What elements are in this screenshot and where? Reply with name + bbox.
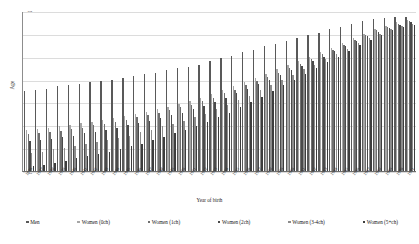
bar-group [198,12,209,171]
bar-group [285,12,296,171]
x-tick-label: 1942 [90,167,99,177]
x-tick-label: 1958 [265,167,274,177]
x-tick-label: 1938 [47,167,56,177]
bar-group [394,12,405,171]
x-tick-label: 1957 [254,167,263,177]
bar-group [350,12,361,171]
legend-item[interactable]: Men [26,219,40,225]
x-tick-label: 1955 [232,167,241,177]
legend-swatch-icon [363,221,366,224]
x-tick-label: 1967 [363,167,372,177]
plot-area [22,12,416,172]
bar-group [383,12,394,171]
x-tick-label: 1971 [407,167,416,177]
legend-item[interactable]: Women (1ch) [148,219,180,225]
bar-group [78,12,89,171]
legend-item[interactable]: Women (5+ch) [363,219,398,225]
legend-swatch-icon [218,221,221,224]
legend-label: Women (0ch) [82,219,110,225]
bar-group [361,12,372,171]
x-tick-label: 1966 [352,167,361,177]
x-tick-label: 1953 [210,167,219,177]
x-tick-label: 1970 [396,167,405,177]
legend-label: Women (2ch) [222,219,250,225]
x-tick-label: 1939 [58,167,67,177]
bar-group [111,12,122,171]
x-tick-label: 1949 [167,167,176,177]
bar-group [154,12,165,171]
bar-group [209,12,220,171]
bar-group [24,12,35,171]
x-tick-label: 1954 [221,167,230,177]
bar-group [165,12,176,171]
bar-group [339,12,350,171]
bar-group [45,12,56,171]
bar-group [187,12,198,171]
x-tick-label: 1965 [341,167,350,177]
x-tick-label: 1956 [243,167,252,177]
bar-group [307,12,318,171]
bar-group [220,12,231,171]
x-axis-title: Year of birth [0,197,419,203]
x-tick-label: 1945 [123,167,132,177]
x-tick-label: 1960 [287,167,296,177]
legend-swatch-icon [26,221,29,224]
legend-label: Women (3-4ch) [292,219,325,225]
legend-item[interactable]: Women (3-4ch) [288,219,325,225]
x-tick-label: 1944 [112,167,121,177]
legend-swatch-icon [288,221,291,224]
bar-group [122,12,133,171]
bar-group [252,12,263,171]
bar-group [67,12,78,171]
x-tick-label: 1968 [374,167,383,177]
chart-figure: Age 6765636159575553 1936193719381939194… [0,0,419,244]
legend-swatch-icon [148,221,151,224]
x-tick-label: 1943 [101,167,110,177]
bar [414,25,415,171]
legend-swatch-icon [77,221,80,224]
bar-group [56,12,67,171]
bar-group [231,12,242,171]
legend-item[interactable]: Women (2ch) [218,219,250,225]
bar-group [241,12,252,171]
bar-group [89,12,100,171]
bar-group [143,12,154,171]
x-tick-label: 1969 [385,167,394,177]
x-tick-label: 1936 [25,167,34,177]
x-tick-label: 1946 [134,167,143,177]
x-tick-label: 1937 [36,167,45,177]
bar-group [176,12,187,171]
bar-group [329,12,340,171]
bar-group [372,12,383,171]
legend-label: Women (1ch) [152,219,180,225]
bar-group [133,12,144,171]
bar-groups [23,12,416,171]
x-tick-label: 1959 [276,167,285,177]
bar-group [263,12,274,171]
x-tick-label: 1947 [145,167,154,177]
legend-label: Women (5+ch) [367,219,398,225]
chart-legend: MenWomen (0ch)Women (1ch)Women (2ch)Wome… [26,219,398,225]
x-tick-label: 1950 [178,167,187,177]
bar-group [405,12,416,171]
bar-group [34,12,45,171]
bar-group [296,12,307,171]
bar-group [100,12,111,171]
x-tick-label: 1961 [298,167,307,177]
bar-group [318,12,329,171]
legend-item[interactable]: Women (0ch) [77,219,109,225]
legend-label: Men [30,219,40,225]
bar-group [274,12,285,171]
x-tick-label: 1948 [156,167,165,177]
x-tick-label: 1964 [330,167,339,177]
